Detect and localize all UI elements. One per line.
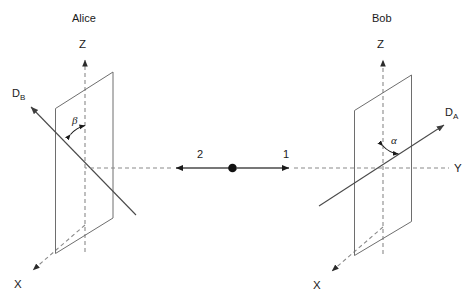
alice-x-axis: X <box>14 225 85 290</box>
bob-plane-outline <box>355 75 412 256</box>
bob-x-axis-line <box>332 227 383 271</box>
bob-angle-alpha: α <box>383 134 399 154</box>
bob-y-axis-label: Y <box>454 162 462 174</box>
bob-detector-axis-line <box>319 125 444 206</box>
bob-detector-label: D <box>445 106 453 118</box>
bob-z-axis: Z <box>377 38 384 254</box>
alice-x-axis-line <box>33 225 85 270</box>
bob-detector-sublabel: A <box>453 112 459 121</box>
alice-x-axis-label: X <box>14 278 22 290</box>
bob-title: Bob <box>372 12 392 24</box>
epr-setup-figure: Alice Z X D B β 2 <box>0 0 473 303</box>
alice-z-axis-label: Z <box>79 38 86 50</box>
bob-angle-label: α <box>391 134 397 146</box>
alice-angle-arc <box>71 126 86 135</box>
particle-source-dot <box>228 164 237 173</box>
bob-station: Bob 1 Y Z X D A <box>236 12 462 291</box>
alice-detector-sublabel: B <box>20 93 25 102</box>
bob-z-axis-label: Z <box>377 38 384 50</box>
alice-angle-label: β <box>71 114 78 126</box>
particle-2-path: 2 <box>85 148 229 168</box>
particle-1-path: 1 <box>236 148 289 168</box>
particle-2-label: 2 <box>197 148 203 160</box>
alice-detector-axis-line <box>31 107 136 215</box>
alice-title: Alice <box>72 12 96 24</box>
bob-angle-arc <box>383 146 399 154</box>
alice-detector-axis: D B <box>12 87 136 215</box>
alice-angle-beta: β <box>71 114 86 135</box>
alice-z-axis: Z <box>79 38 86 252</box>
alice-station: Alice Z X D B β 2 <box>12 12 229 290</box>
bob-x-axis-label: X <box>313 279 321 291</box>
bob-polarizer-plane <box>355 75 412 256</box>
diagram-canvas: Alice Z X D B β 2 <box>0 0 473 303</box>
particle-1-label: 1 <box>283 148 289 160</box>
source-group <box>228 164 237 173</box>
bob-detector-axis: D A <box>319 106 459 206</box>
alice-detector-label: D <box>12 87 20 99</box>
bob-x-axis: X <box>313 227 383 291</box>
